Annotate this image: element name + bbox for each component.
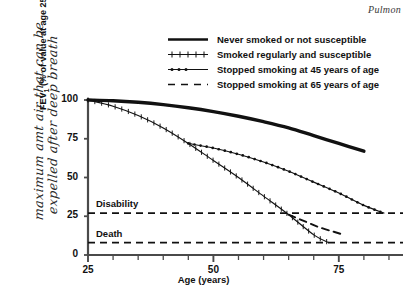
series-2	[88, 97, 329, 244]
axes-layer	[84, 98, 403, 262]
series-3	[187, 142, 384, 213]
x-axis-title: Age (years)	[0, 274, 407, 285]
y-tick-label: 0	[54, 248, 78, 259]
y-tick-label: 50	[54, 171, 78, 182]
threshold-label-disability: Disability	[96, 198, 138, 209]
y-tick-label: 100	[54, 93, 78, 104]
y-tick-label: 75	[54, 132, 78, 143]
threshold-label-death: Death	[96, 228, 122, 239]
y-tick-label: 25	[54, 209, 78, 220]
data-series-layer	[88, 97, 384, 244]
figure-root: Pulmon maximum amt air that can be expel…	[0, 0, 407, 293]
threshold-lines-layer	[88, 213, 403, 242]
series-4	[289, 215, 344, 235]
series-1	[88, 100, 364, 151]
